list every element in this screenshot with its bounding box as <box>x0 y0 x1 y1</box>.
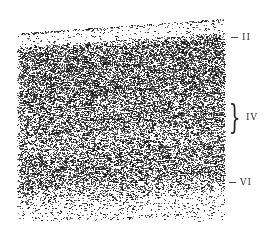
layer-iv-text: IV <box>246 112 258 122</box>
layer-label-vi: VI <box>229 177 252 187</box>
layer-iv-brace: } <box>229 99 241 133</box>
layer-vi-text: VI <box>240 177 252 187</box>
layer-label-iv: IV <box>246 112 258 122</box>
label-tick <box>229 182 236 183</box>
label-tick <box>231 37 238 38</box>
layer-label-ii: II <box>231 32 251 42</box>
layer-ii-text: II <box>242 32 251 42</box>
